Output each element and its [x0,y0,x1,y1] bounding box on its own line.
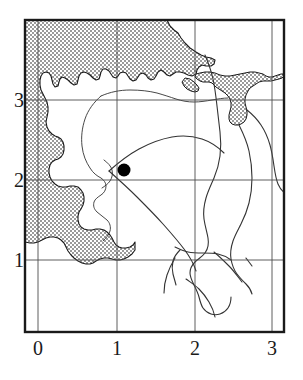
x-tick-label-0: 0 [26,338,50,358]
y-tick-label-2: 2 [0,170,24,190]
map-canvas [0,0,303,380]
y-tick-label-3: 3 [0,90,24,110]
map-figure: 0 1 2 3 1 2 3 [0,0,303,380]
x-tick-label-3: 3 [260,338,284,358]
y-tick-label-1: 1 [0,250,24,270]
site-marker [118,164,131,177]
x-tick-label-1: 1 [105,338,129,358]
x-tick-label-2: 2 [183,338,207,358]
